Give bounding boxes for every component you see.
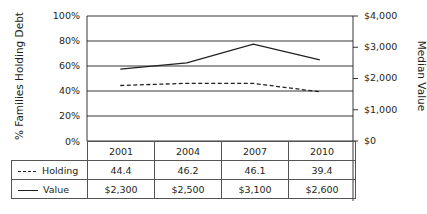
- left-tick: 20%: [36, 110, 80, 121]
- right-tick: $1,000: [364, 104, 397, 115]
- left-tick: 60%: [36, 60, 80, 71]
- right-tick: $2,000: [364, 72, 397, 83]
- solid-line-legend-icon: [18, 190, 38, 191]
- table-row-value: Value $2,300 $2,500 $3,100 $2,600: [12, 180, 356, 199]
- right-tick: $0: [364, 135, 376, 146]
- data-table: 2001 2004 2007 2010 Holding 44.4 46.2 46…: [11, 141, 356, 199]
- holding-series-line: [120, 83, 319, 92]
- left-tick: 40%: [36, 85, 80, 96]
- table-cell: 46.2: [155, 161, 222, 180]
- row-label: Value: [43, 184, 69, 195]
- table-row-holding: Holding 44.4 46.2 46.1 39.4: [12, 161, 356, 180]
- table-cell: 39.4: [289, 161, 356, 180]
- table-cell: $3,100: [222, 180, 289, 199]
- right-axis-ticks: [353, 16, 358, 141]
- row-label: Holding: [42, 165, 78, 176]
- right-tick: $4,000: [364, 10, 397, 21]
- year-cell: 2007: [222, 142, 289, 161]
- right-axis-label: Median Value: [416, 16, 427, 136]
- table-cell: 44.4: [88, 161, 155, 180]
- value-series-line: [120, 44, 319, 69]
- table-cell: $2,600: [289, 180, 356, 199]
- table-cell: $2,300: [88, 180, 155, 199]
- dashed-line-legend-icon: [18, 171, 36, 172]
- table-cell: $2,500: [155, 180, 222, 199]
- gridlines: [87, 16, 353, 141]
- year-cell: 2010: [289, 142, 356, 161]
- left-tick: 100%: [36, 10, 80, 21]
- left-axis-label: % Families Holding Debt: [13, 1, 25, 151]
- right-tick: $3,000: [364, 41, 397, 52]
- table-cell: 46.1: [222, 161, 289, 180]
- left-tick: 80%: [36, 35, 80, 46]
- year-cell: 2004: [155, 142, 222, 161]
- year-row: 2001 2004 2007 2010: [12, 142, 356, 161]
- year-cell: 2001: [88, 142, 155, 161]
